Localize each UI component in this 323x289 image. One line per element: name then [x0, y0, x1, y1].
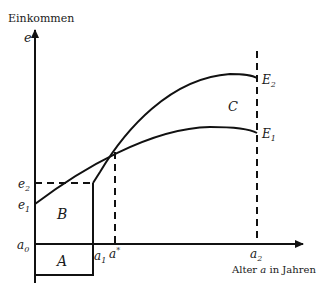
income-age-diagram: Einkommen e Alter a in Jahren e2 e1 a0 a…: [0, 0, 323, 289]
y-axis-label: Einkommen: [8, 12, 74, 25]
tick-e1: e1: [18, 198, 30, 214]
x-axis-label: Alter a in Jahren: [231, 264, 316, 275]
region-c-label: C: [228, 99, 238, 114]
region-b-label: B: [56, 206, 67, 222]
curve-e1: [35, 127, 257, 204]
tick-e2: e2: [18, 177, 30, 193]
y-axis-symbol: e: [24, 30, 32, 45]
tick-astar: a*: [109, 246, 120, 261]
tick-a2: a2: [250, 247, 262, 263]
tick-a0: a0: [17, 238, 29, 254]
region-a-label: A: [55, 253, 67, 269]
label-e1: E1: [261, 127, 276, 143]
label-e2: E2: [261, 73, 276, 89]
tick-a1: a1: [94, 249, 106, 265]
